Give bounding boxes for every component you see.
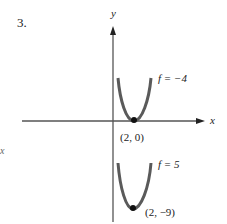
vertex-point-2-0 <box>131 117 137 123</box>
level-curves-plot <box>0 0 227 224</box>
vertex-point-2-minus-9 <box>130 205 136 211</box>
curve-label-f-minus-4: f = −4 <box>158 73 187 84</box>
y-axis-label: y <box>111 8 116 19</box>
x-axis-label: x <box>210 115 215 126</box>
x-axis-arrow-icon <box>196 118 205 124</box>
curve-f-minus-4 <box>118 78 151 121</box>
y-axis-arrow-icon <box>110 26 116 35</box>
vertex-label-2-0: (2, 0) <box>120 132 144 143</box>
margin-fragment-text: x <box>0 146 4 156</box>
vertex-label-2-minus-9: (2, −9) <box>145 207 175 218</box>
curve-label-f-5: f = 5 <box>158 159 179 170</box>
curve-f-5 <box>118 163 151 209</box>
